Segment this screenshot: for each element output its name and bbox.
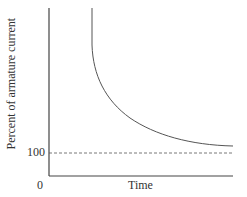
y-tick-100: 100 [27,145,45,160]
origin-label: 0 [37,178,43,193]
y-axis-label: Percent of armature current [4,32,19,150]
current-curve [92,8,233,146]
x-axis-label: Time [128,178,153,193]
chart-plot [0,0,247,197]
